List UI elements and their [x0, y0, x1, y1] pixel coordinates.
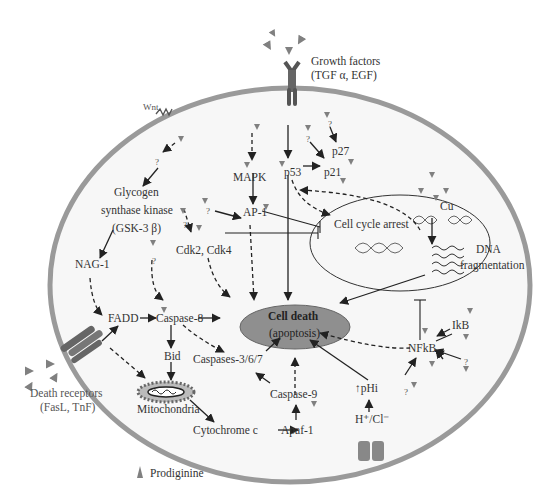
node-dna: DNA [476, 243, 501, 256]
wnt-label: Wnt [143, 101, 159, 114]
node-fragmentation: fragmentation [460, 259, 525, 272]
legend-prodiginine-label: Prodiginine [150, 467, 204, 480]
node-cell-death: Cell death [268, 310, 318, 323]
unknown-marker: ? [206, 205, 210, 218]
node-h-cl: H⁺/Cl⁻ [355, 413, 389, 426]
node-p27: p27 [332, 145, 349, 158]
death-receptors-examples-label: (FasL, TnF) [40, 401, 95, 414]
node-ikb: IkB [452, 319, 469, 332]
growth-factors-examples-label: (TGF α, EGF) [311, 69, 377, 82]
unknown-marker: ? [152, 255, 156, 268]
unknown-marker: ? [306, 133, 310, 146]
mitochondria-icon [138, 382, 194, 402]
legend-prodiginine-icon [137, 466, 143, 478]
node-nag1: NAG-1 [75, 258, 110, 271]
node-mapk: MAPK [233, 171, 266, 184]
pathway-diagram-canvas [0, 0, 547, 500]
unknown-marker: ? [183, 219, 187, 232]
node-ap1: AP-1 [243, 206, 267, 219]
node-p21: p21 [324, 166, 341, 179]
cell-membrane [50, 88, 530, 482]
node-glycogen: Glycogen [114, 186, 159, 199]
node-gsk3b: (GSK-3 β) [112, 222, 161, 235]
death-receptors-label: Death receptors [30, 387, 102, 400]
node-cell-cycle-arrest: Cell cycle arrest [334, 218, 409, 231]
unknown-marker: ? [328, 118, 332, 131]
unknown-marker: ? [464, 356, 468, 369]
node-synthase-kinase: synthase kinase [101, 204, 173, 217]
node-cytochrome-c: Cytochrome c [193, 424, 258, 437]
node-caspase8: Caspase-8 [156, 312, 203, 325]
node-apoptosis: (apoptosis) [269, 327, 320, 340]
unknown-marker: ? [404, 386, 408, 399]
node-phi: ↑pHi [355, 382, 378, 395]
node-mitochondria: Mitochondria [137, 403, 200, 416]
node-cu: Cu [440, 200, 453, 213]
node-apaf1: Apaf-1 [281, 424, 314, 437]
growth-factors-label: Growth factors [311, 55, 380, 68]
node-nfkb: NFkB [408, 342, 436, 355]
node-caspase9: Caspase-9 [270, 388, 317, 401]
node-caspases-367: Caspases-3/6/7 [193, 353, 263, 366]
unknown-marker: ? [155, 156, 159, 169]
node-cdk: Cdk2, Cdk4 [176, 244, 232, 257]
node-fadd: FADD [108, 312, 138, 325]
node-p53: p53 [284, 166, 301, 179]
node-bid: Bid [164, 350, 181, 363]
